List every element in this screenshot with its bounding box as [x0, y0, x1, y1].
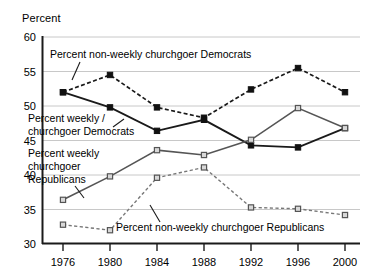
data-point-marker: [342, 125, 347, 130]
data-point-marker: [295, 206, 300, 211]
annotation-weekly-republicans-line2: churchgoer: [28, 160, 81, 172]
leader-weekly-rep: [75, 186, 84, 198]
data-point-marker: [201, 165, 206, 170]
series-layer: [60, 65, 347, 232]
annotation-weekly-democrats-line1: Percent weekly /: [28, 112, 105, 124]
data-point-marker: [248, 143, 253, 148]
data-point-marker: [248, 87, 253, 92]
annotation-weekly-republicans-line1: Percent weekly: [28, 147, 100, 159]
ytick-label-55: 55: [24, 66, 36, 78]
data-point-marker: [248, 205, 253, 210]
data-point-marker: [248, 137, 253, 142]
xtick-label-1996: 1996: [286, 256, 310, 268]
xtick-label-2000: 2000: [333, 256, 357, 268]
leader-nonweekly-rep: [150, 205, 160, 222]
data-point-marker: [107, 228, 112, 233]
data-point-marker: [154, 105, 159, 110]
ytick-label-50: 50: [24, 100, 36, 112]
data-point-marker: [295, 105, 300, 110]
data-point-marker: [295, 65, 300, 70]
x-axis-tickmarks: [63, 244, 345, 251]
annotation-nonweekly-democrats: Percent non-weekly churchgoer Democrats: [50, 48, 251, 60]
xtick-label-1984: 1984: [145, 256, 169, 268]
data-point-marker: [201, 117, 206, 122]
data-point-marker: [154, 128, 159, 133]
ytick-label-35: 35: [24, 204, 36, 216]
data-point-marker: [107, 105, 112, 110]
data-point-marker: [154, 175, 159, 180]
ytick-label-30: 30: [24, 238, 36, 250]
data-point-marker: [154, 148, 159, 153]
data-point-marker: [295, 145, 300, 150]
data-point-marker: [201, 152, 206, 157]
y-axis-tick-labels: 60 55 50 45 40 35 30: [24, 31, 36, 250]
annotation-weekly-republicans-line3: Republicans: [28, 173, 86, 185]
annotation-nonweekly-republicans: Percent non-weekly churchgoer Republican…: [116, 221, 324, 233]
xtick-label-1976: 1976: [51, 256, 75, 268]
data-point-marker: [342, 90, 347, 95]
data-point-marker: [60, 197, 65, 202]
data-point-marker: [107, 174, 112, 179]
xtick-label-1988: 1988: [192, 256, 216, 268]
data-point-marker: [60, 222, 65, 227]
data-point-marker: [107, 72, 112, 77]
chart-container: Percent 60 55 50 45 40 35 30: [0, 0, 373, 280]
annotation-weekly-democrats-line2: churchgoer Democrats: [28, 125, 134, 137]
xtick-label-1992: 1992: [239, 256, 263, 268]
data-point-marker: [60, 90, 65, 95]
line-chart-plot: 60 55 50 45 40 35 30 1976 1980 1984 1988…: [0, 0, 373, 280]
xtick-label-1980: 1980: [98, 256, 122, 268]
ytick-label-60: 60: [24, 31, 36, 43]
data-point-marker: [342, 212, 347, 217]
x-axis-tick-labels: 1976 1980 1984 1988 1992 1996 2000: [51, 256, 357, 268]
annotation-leaders: [72, 62, 160, 222]
